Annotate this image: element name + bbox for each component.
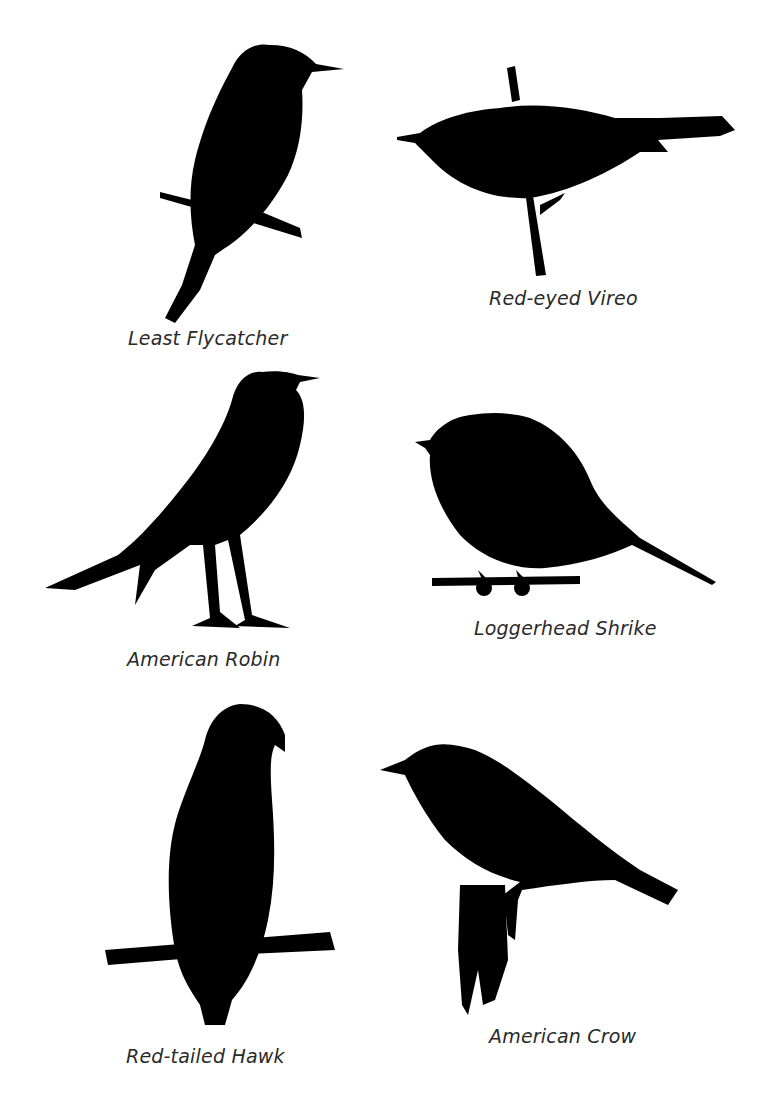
red-tailed-hawk-silhouette [105,704,335,1025]
label-red-tailed-hawk: Red-tailed Hawk [126,1045,285,1067]
label-american-robin: American Robin [127,648,280,670]
american-robin-silhouette [45,371,320,628]
label-red-eyed-vireo: Red-eyed Vireo [489,287,638,309]
american-crow-silhouette [380,744,678,1015]
bird-silhouettes [0,0,765,1110]
loggerhead-shrike-silhouette [415,413,716,596]
red-eyed-vireo-silhouette [397,66,735,276]
label-american-crow: American Crow [489,1025,636,1047]
least-flycatcher-silhouette [160,44,344,323]
label-least-flycatcher: Least Flycatcher [128,327,288,349]
label-loggerhead-shrike: Loggerhead Shrike [474,617,657,639]
